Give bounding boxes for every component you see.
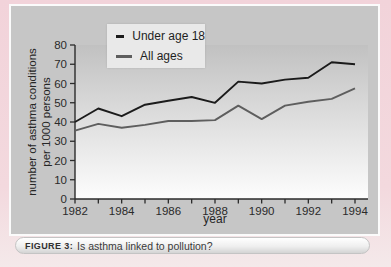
legend-item-under-age-18: Under age 18 xyxy=(116,29,205,43)
chart-legend: Under age 18 All ages xyxy=(107,24,205,68)
x-tick-label: 1994 xyxy=(342,205,368,217)
y-tick-label: 20 xyxy=(54,155,67,167)
x-tick-label: 1984 xyxy=(109,205,135,217)
x-tick-label: 1982 xyxy=(62,205,88,217)
legend-item-all-ages: All ages xyxy=(116,49,205,63)
textbook-figure-page: 0102030405060708019821984198619881990199… xyxy=(0,0,391,267)
x-tick-label: 1992 xyxy=(296,205,322,217)
legend-dash-icon xyxy=(116,55,132,58)
legend-label: All ages xyxy=(140,49,183,63)
y-tick-label: 40 xyxy=(54,116,67,128)
y-tick-label: 50 xyxy=(54,97,67,109)
legend-label: Under age 18 xyxy=(132,29,205,43)
y-axis-title: number of asthma conditions per 1000 per… xyxy=(26,42,54,202)
y-tick-label: 30 xyxy=(54,135,67,147)
legend-dash-icon xyxy=(116,35,124,38)
y-axis-title-line-2: per 1000 persons xyxy=(40,42,54,202)
y-axis-title-line-1: number of asthma conditions xyxy=(26,42,40,202)
x-axis-title: year xyxy=(155,212,275,226)
figure-caption-text: Is asthma linked to pollution? xyxy=(77,240,212,252)
figure-caption-label: FIGURE 3: xyxy=(25,241,73,251)
y-tick-label: 60 xyxy=(54,78,67,90)
y-tick-label: 80 xyxy=(54,39,67,51)
y-tick-label: 0 xyxy=(61,193,67,205)
figure-panel: 0102030405060708019821984198619881990199… xyxy=(9,4,380,236)
y-tick-label: 70 xyxy=(54,58,67,70)
y-tick-label: 10 xyxy=(54,174,67,186)
figure-caption-bar: FIGURE 3: Is asthma linked to pollution? xyxy=(15,237,370,254)
